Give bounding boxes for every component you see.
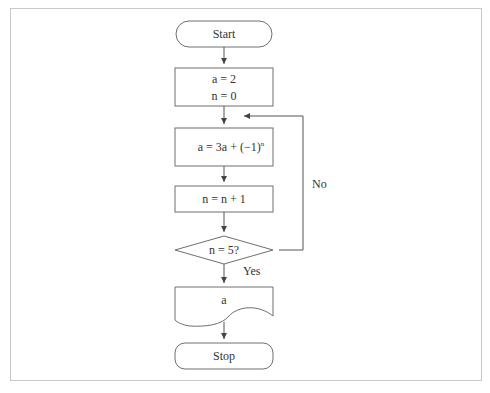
output-label: a bbox=[221, 293, 227, 307]
update-a-node: a = 3a + (−1)n bbox=[175, 128, 273, 166]
update-a-label: a = 3a + (−1)n bbox=[198, 140, 265, 154]
start-label: Start bbox=[213, 27, 236, 41]
decision-label: n = 5? bbox=[209, 243, 239, 257]
init-label-n: n = 0 bbox=[212, 89, 237, 103]
decision-node: n = 5? bbox=[175, 236, 273, 264]
stop-node: Stop bbox=[175, 343, 273, 369]
init-label-a: a = 2 bbox=[212, 72, 236, 86]
stop-label: Stop bbox=[213, 349, 235, 363]
increment-n-node: n = n + 1 bbox=[175, 186, 273, 212]
flowchart: Start a = 2 n = 0 a = 3a + (−1)n n = n +… bbox=[0, 0, 490, 393]
no-label: No bbox=[312, 177, 327, 191]
increment-n-label: n = n + 1 bbox=[202, 192, 246, 206]
start-node: Start bbox=[176, 21, 272, 47]
init-node: a = 2 n = 0 bbox=[175, 68, 273, 106]
output-node: a bbox=[175, 287, 273, 326]
yes-label: Yes bbox=[243, 264, 261, 278]
